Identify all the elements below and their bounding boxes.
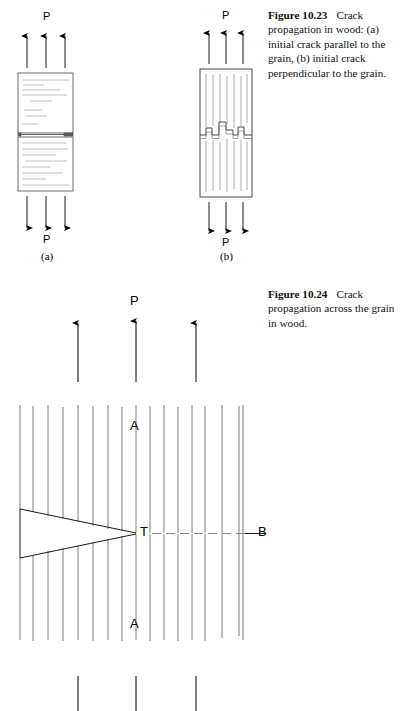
figure-a-sublabel: (a) [41, 250, 53, 262]
figure-b-bottom-arrows [209, 202, 243, 231]
figure-a-crack [18, 133, 73, 136]
figure-b-load-top-label: P [222, 9, 229, 21]
figure-a-lower-block [18, 137, 73, 191]
figure-b-load-bottom-label: P [222, 236, 229, 248]
figure-c-bottom-arrows [78, 676, 196, 711]
figure-c-axis-label-top: A [130, 418, 139, 433]
caption-figure-10-24-line1: Crack [336, 288, 363, 300]
figure-c-crack-tip-label: T [140, 524, 148, 539]
figure-c-axis-label-bottom: A [130, 616, 139, 631]
figure-artwork [0, 0, 407, 711]
caption-figure-10-23-line5: perpendicular to the grain. [268, 67, 386, 79]
caption-figure-10-23-line2: propagation in wood: [268, 23, 364, 35]
caption-figure-10-24-line2: propagation across the [268, 302, 369, 314]
figure-c-group [20, 321, 265, 711]
figure-b-sublabel: (b) [220, 250, 233, 262]
figure-a-load-bottom-label: P [43, 233, 50, 245]
caption-figure-10-24: Figure 10.24Crack propagation across the… [268, 287, 404, 330]
caption-figure-10-23: Figure 10.23Crack propagation in wood: (… [268, 8, 404, 80]
figure-c-far-field-label: B [258, 524, 267, 539]
figure-a-load-top-label: P [43, 10, 50, 22]
caption-figure-10-23-line1: Crack [336, 9, 363, 21]
figure-b-top-arrows [209, 33, 243, 64]
figure-a-group [18, 36, 73, 228]
figure-c-load-top-label: P [130, 293, 139, 308]
figure-a-upper-block [18, 73, 73, 133]
caption-figure-10-24-number: Figure 10.24 [268, 288, 327, 300]
figure-b-group [200, 33, 252, 231]
figure-page: P P (a) P P (b) P A A T B Figure 10.23Cr… [0, 0, 407, 711]
figure-a-top-arrows [27, 36, 65, 68]
figure-c-top-arrows [78, 321, 196, 382]
figure-a-bottom-arrows [27, 196, 65, 228]
caption-figure-10-23-number: Figure 10.23 [268, 9, 327, 21]
